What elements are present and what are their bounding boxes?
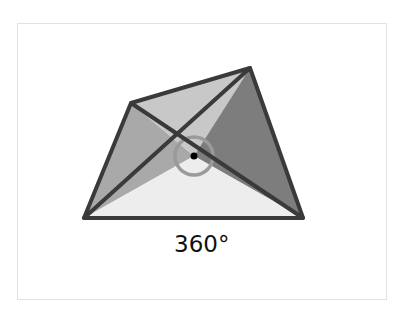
center-point	[191, 153, 198, 160]
angle-label: 360°	[174, 231, 229, 257]
quadrilateral-angle-diagram	[0, 0, 406, 321]
